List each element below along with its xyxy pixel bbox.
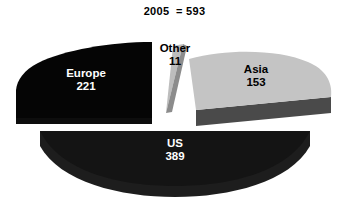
pie-slice-us (40, 131, 310, 197)
pie-slice-asia (189, 52, 331, 126)
pie-chart-figure: 2005 = 593 Europe 221 Asia 153 (0, 0, 349, 206)
pie-chart-graphic (0, 0, 349, 206)
pie-slice-europe-top (16, 42, 152, 118)
pie-slice-europe (16, 42, 152, 124)
pie-slice-other (166, 44, 187, 113)
